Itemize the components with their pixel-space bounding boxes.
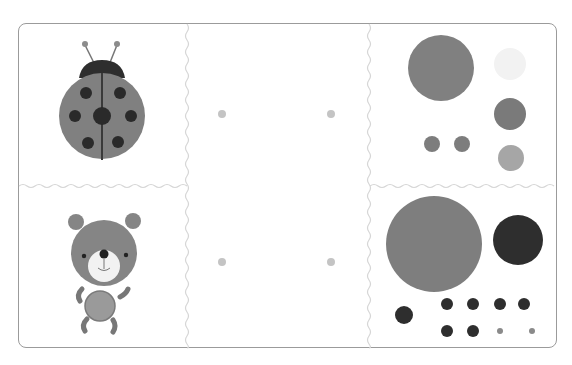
bear-arm xyxy=(120,289,128,297)
bear-parts-circle xyxy=(441,325,453,337)
ladybug-parts-circle xyxy=(424,136,440,152)
bear-parts-circle xyxy=(467,325,479,337)
bear-parts-circle xyxy=(493,215,543,265)
ladybug-illustration xyxy=(59,41,145,160)
bear-parts-circle xyxy=(494,298,506,310)
bear-ear xyxy=(68,214,84,230)
bear-parts-circle xyxy=(529,328,535,334)
horizontal-divider-left xyxy=(19,185,187,188)
bear-belly xyxy=(85,291,115,321)
bear-ear xyxy=(125,213,141,229)
worksheet-canvas xyxy=(0,0,572,365)
bear-nose xyxy=(100,250,109,259)
bear-leg xyxy=(113,320,115,332)
antenna-tip-icon xyxy=(82,41,88,47)
bear-leg xyxy=(83,319,87,331)
bear-parts-circle xyxy=(518,298,530,310)
bear-parts-circle xyxy=(395,306,413,324)
bear-parts-circle xyxy=(441,298,453,310)
bear-illustration xyxy=(68,213,141,332)
horizontal-divider-right xyxy=(370,185,554,188)
ladybug-parts-circle xyxy=(408,35,474,101)
ladybug-parts-circle xyxy=(498,145,524,171)
bear-parts-circle xyxy=(467,298,479,310)
ladybug-parts-circle xyxy=(494,98,526,130)
ladybug-parts-circle xyxy=(454,136,470,152)
bear-parts-circle xyxy=(386,196,482,292)
connect-dot[interactable] xyxy=(218,110,226,118)
ladybug-parts-circle xyxy=(494,48,526,80)
connect-dot[interactable] xyxy=(327,258,335,266)
connect-dot[interactable] xyxy=(218,258,226,266)
bear-parts-circle xyxy=(497,328,503,334)
bear-arm xyxy=(78,289,82,301)
connect-dot[interactable] xyxy=(327,110,335,118)
connect-dots xyxy=(218,110,335,266)
antenna-tip-icon xyxy=(114,41,120,47)
